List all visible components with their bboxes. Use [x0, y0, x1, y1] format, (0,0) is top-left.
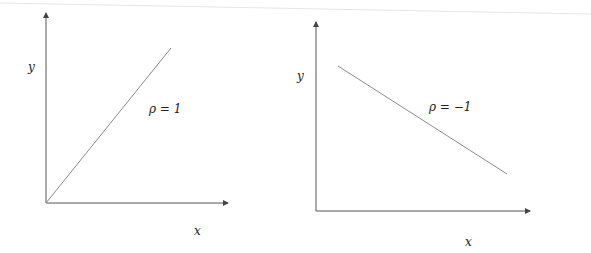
correlation-diagrams — [0, 0, 591, 253]
positive-line — [46, 48, 171, 203]
annotation-rho-positive: ρ = 1 — [149, 102, 181, 116]
y-axis-label-right: y — [297, 69, 304, 83]
y-axis-label-left: y — [28, 60, 35, 74]
diagram-positive — [46, 13, 228, 203]
x-axis-label-right: x — [465, 235, 472, 249]
top-divider — [0, 3, 591, 14]
diagram-negative — [316, 22, 530, 211]
annotation-rho-negative: ρ = −1 — [429, 100, 471, 114]
x-axis-label-left: x — [194, 224, 201, 238]
negative-line — [338, 66, 507, 174]
